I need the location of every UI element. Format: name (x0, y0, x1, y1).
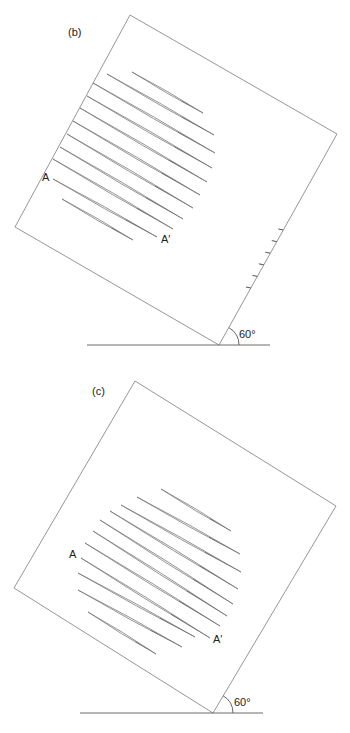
streak-core (179, 601, 217, 624)
edge-tick-mark (265, 252, 270, 253)
streak-core (137, 208, 171, 228)
angle-label-c: 60° (234, 697, 251, 708)
figure-c (14, 381, 336, 713)
edge-tick-mark (252, 275, 257, 276)
streak-lens (161, 489, 231, 531)
streak-core (111, 228, 131, 240)
streak-lens (137, 497, 240, 554)
point-label-a-b: A (42, 172, 49, 183)
diagram-canvas (0, 0, 350, 733)
edge-tick-mark (259, 264, 264, 265)
angle-arc (229, 328, 239, 345)
point-label-a-c: A (69, 549, 76, 560)
streak-core (210, 518, 230, 530)
streak-core (209, 537, 238, 553)
figure-b (15, 15, 337, 345)
point-label-a-prime-c: A′ (213, 634, 222, 645)
panel-label-c: (c) (92, 386, 105, 397)
streak-core (178, 132, 213, 152)
angle-label-b: 60° (239, 329, 256, 340)
streak-core (151, 630, 180, 646)
streak-core (126, 220, 155, 236)
streak-lens (121, 505, 241, 572)
angle-arc (223, 696, 233, 713)
streak-core (199, 566, 235, 588)
edge-tick-mark (246, 287, 251, 288)
streak-lens (132, 72, 203, 113)
streak-core (169, 160, 205, 181)
panel-label-b: (b) (68, 27, 81, 38)
streak-core (205, 552, 239, 571)
edge-tick-mark (272, 241, 277, 242)
streak-core (181, 101, 201, 113)
streak-core (155, 186, 191, 207)
streak-lens (88, 612, 156, 654)
streak-core (146, 197, 181, 217)
point-label-a-prime-b: A′ (161, 234, 170, 245)
streak-core (160, 618, 193, 636)
streak-core (171, 614, 207, 636)
streak-lens (100, 520, 233, 604)
streak-core (182, 117, 212, 134)
streak-core (174, 146, 209, 166)
edge-tick-mark (278, 229, 283, 230)
streak-lens (93, 531, 227, 616)
streak-core (135, 641, 154, 653)
streak-core (162, 173, 198, 194)
tilted-square-outline (14, 381, 336, 713)
